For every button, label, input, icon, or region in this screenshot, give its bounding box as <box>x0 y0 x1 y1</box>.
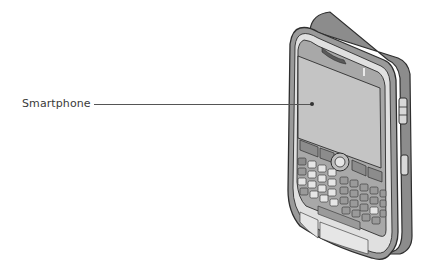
leader-line <box>94 104 312 105</box>
smartphone-label: Smartphone <box>22 97 91 110</box>
smartphone-illustration <box>0 0 430 264</box>
side-button-lower <box>401 155 408 175</box>
side-button-upper <box>399 98 407 124</box>
leader-endpoint <box>310 102 314 106</box>
